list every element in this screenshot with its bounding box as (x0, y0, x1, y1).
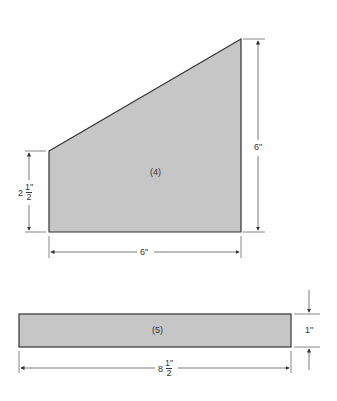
piece-4-height-dim: 6" (254, 143, 262, 152)
piece-5-label: (5) (152, 326, 163, 335)
piece-4-shape (49, 39, 241, 232)
diagram-canvas (0, 0, 337, 401)
piece-5-height-dim: 1" (305, 326, 313, 335)
piece-4-width-dim: 6" (140, 248, 148, 257)
piece-5-length-dim: 8 1"2 (158, 359, 173, 378)
piece-4-label: (4) (150, 168, 161, 177)
piece-4-left-height-dim: 2 1"2 (18, 183, 33, 202)
